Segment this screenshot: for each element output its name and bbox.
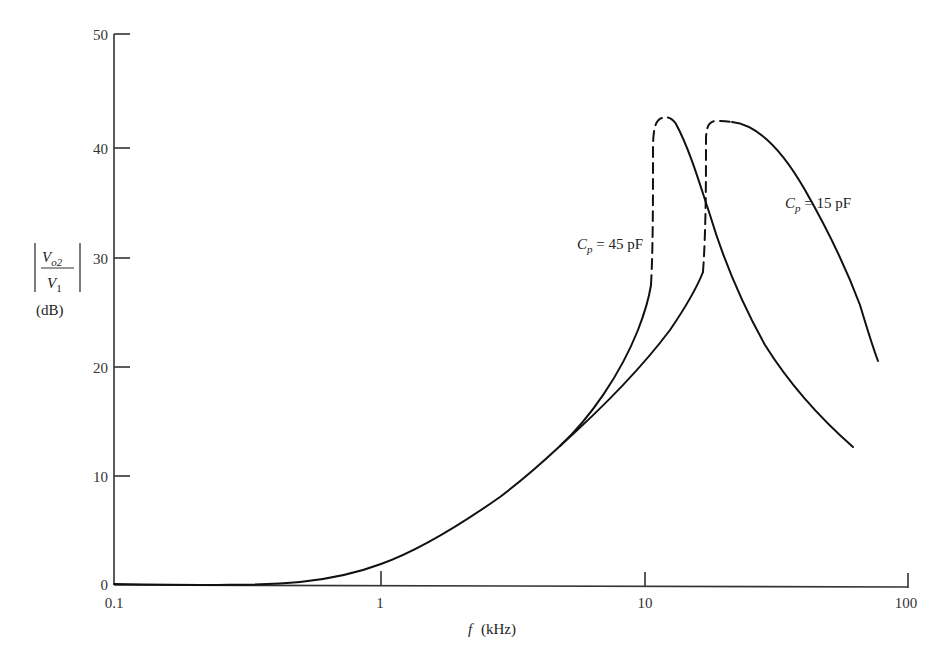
y-tick-10: 10: [93, 469, 108, 485]
ann15-rest: = 15 pF: [801, 195, 852, 211]
y-label-unit: (dB): [36, 302, 64, 319]
y-tick-50: 50: [93, 27, 108, 43]
curve-45pF-dashed: [651, 117, 676, 285]
annotation-45pF: Cp = 45 pF: [577, 236, 643, 255]
svg-text:V1: V1: [47, 275, 62, 294]
svg-text:Cp = 15 pF: Cp = 15 pF: [785, 195, 851, 214]
x-tick-labels: 0.1 1 10 100: [105, 595, 918, 611]
chart-canvas: 50 40 30 20 10 0 0.1 1 10 100 f (kHz) Vo…: [0, 0, 948, 672]
x-label-unit: (kHz): [481, 621, 516, 638]
y-tick-20: 20: [93, 360, 108, 376]
x-axis-label: f (kHz): [468, 621, 516, 638]
y-axis-label: Vo2 V1 (dB): [35, 243, 80, 319]
y-axis: [114, 34, 130, 585]
y-tick-0: 0: [101, 577, 109, 593]
y-label-denominator-sub: 1: [56, 282, 62, 294]
y-tick-40: 40: [93, 141, 108, 157]
curve-45pF-falling: [676, 124, 853, 447]
ann45-rest: = 45 pF: [593, 236, 644, 252]
annotation-15pF: Cp = 15 pF: [785, 195, 851, 214]
svg-text:f (kHz): f (kHz): [468, 621, 516, 638]
svg-text:Vo2: Vo2: [42, 249, 63, 268]
curve-15pF-dashed: [703, 121, 732, 272]
y-label-numerator-sub: o2: [51, 256, 63, 268]
x-tick-0.1: 0.1: [105, 595, 124, 611]
curve-15pF-rising: [560, 272, 703, 446]
svg-text:Cp = 45 pF: Cp = 45 pF: [577, 236, 643, 255]
x-tick-1: 1: [376, 595, 384, 611]
x-label-f: f: [468, 621, 474, 637]
curve-45pF-rising: [560, 285, 651, 446]
x-tick-10: 10: [638, 595, 653, 611]
y-tick-labels: 50 40 30 20 10 0: [93, 27, 108, 593]
y-tick-30: 30: [93, 251, 108, 267]
x-tick-100: 100: [895, 595, 918, 611]
curve-common-lowfreq: [114, 446, 560, 585]
